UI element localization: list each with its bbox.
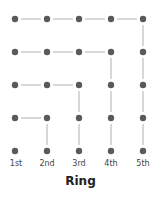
column-label-5: 5th xyxy=(127,159,159,168)
node xyxy=(108,115,114,121)
diagram-title: Ring xyxy=(0,174,161,188)
node xyxy=(44,82,50,88)
node xyxy=(108,148,114,154)
node xyxy=(108,82,114,88)
node xyxy=(44,16,50,22)
column-label-3: 3rd xyxy=(63,159,95,168)
node xyxy=(108,49,114,55)
node xyxy=(44,148,50,154)
node xyxy=(12,16,18,22)
node xyxy=(140,148,146,154)
node xyxy=(76,115,82,121)
ring-diagram xyxy=(0,0,161,200)
node xyxy=(44,115,50,121)
node xyxy=(12,115,18,121)
node xyxy=(76,49,82,55)
node xyxy=(12,148,18,154)
node xyxy=(140,115,146,121)
node xyxy=(140,82,146,88)
node xyxy=(76,82,82,88)
node xyxy=(12,82,18,88)
node xyxy=(76,16,82,22)
node xyxy=(76,148,82,154)
column-label-2: 2nd xyxy=(31,159,63,168)
node xyxy=(108,16,114,22)
column-label-1: 1st xyxy=(0,159,32,168)
column-label-4: 4th xyxy=(95,159,127,168)
node xyxy=(12,49,18,55)
node xyxy=(44,49,50,55)
node xyxy=(140,16,146,22)
node xyxy=(140,49,146,55)
